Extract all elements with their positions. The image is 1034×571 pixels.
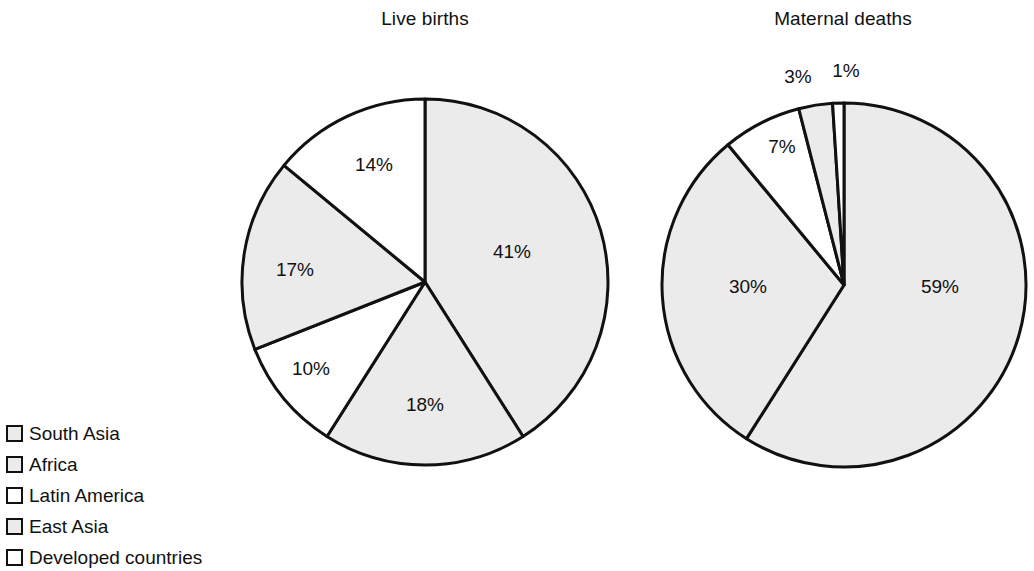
legend-swatch-icon	[6, 456, 23, 473]
legend-item-label: Developed countries	[29, 548, 202, 567]
legend-item: East Asia	[6, 511, 306, 542]
pie-slice-label: 3%	[784, 66, 812, 87]
legend-item: South Asia	[6, 418, 306, 449]
legend-swatch-icon	[6, 549, 23, 566]
legend-swatch-icon	[6, 487, 23, 504]
legend-swatch-icon	[6, 518, 23, 535]
legend-item-label: Africa	[29, 455, 78, 474]
pie-slice-label: 7%	[768, 136, 796, 157]
legend-item-label: East Asia	[29, 517, 108, 536]
legend-item-label: Latin America	[29, 486, 144, 505]
legend-item-label: South Asia	[29, 424, 120, 443]
legend-item: Developed countries	[6, 542, 306, 571]
legend-swatch-icon	[6, 425, 23, 442]
pie-slice-label: 30%	[729, 276, 767, 297]
legend: South AsiaAfricaLatin AmericaEast AsiaDe…	[6, 418, 306, 571]
pie-slice-label: 59%	[921, 276, 959, 297]
figure-root: Live births Maternal deaths 41%18%10%17%…	[0, 0, 1034, 571]
legend-item: Latin America	[6, 480, 306, 511]
legend-item: Africa	[6, 449, 306, 480]
pie-slice-label: 1%	[832, 60, 860, 81]
